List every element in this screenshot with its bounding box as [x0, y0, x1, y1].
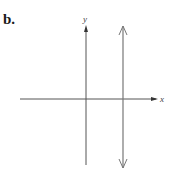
vertical-line [119, 26, 127, 168]
coordinate-plane: x y [0, 0, 174, 180]
x-axis-label: x [159, 94, 164, 104]
y-axis-label: y [82, 14, 87, 24]
y-axis [84, 25, 88, 165]
x-axis [20, 97, 158, 101]
